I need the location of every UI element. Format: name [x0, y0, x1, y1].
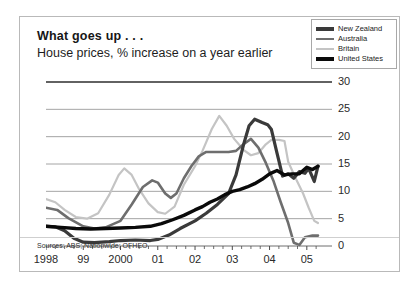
legend-label: Australia [338, 34, 367, 44]
chart-title: What goes up . . . [37, 29, 143, 43]
legend-label: New Zealand [338, 24, 382, 34]
y-tick-label: 25 [338, 103, 350, 114]
legend-item-new-zealand: New Zealand [316, 24, 393, 34]
x-tick-label: 02 [175, 254, 215, 265]
x-tick-label: 99 [63, 254, 103, 265]
legend-item-britain: Britain [316, 44, 393, 54]
sources-note: Sources: ABS; Nationwide; OFHEO [37, 242, 148, 249]
y-tick-label: 10 [338, 185, 350, 196]
y-tick-label: 0 [338, 240, 344, 251]
chart-legend: New ZealandAustraliaBritainUnited States [311, 19, 397, 69]
x-tick-label: 05 [287, 254, 327, 265]
y-tick-label: 5 [338, 213, 344, 224]
legend-swatch-icon [316, 57, 334, 60]
x-tick-label: 04 [250, 254, 290, 265]
chart-svg [46, 78, 343, 250]
chart-subtitle: House prices, % increase on a year earli… [37, 46, 273, 60]
legend-item-australia: Australia [316, 34, 393, 44]
y-tick-label: 20 [338, 131, 350, 142]
x-tick-label: 01 [138, 254, 178, 265]
legend-swatch-icon [316, 27, 334, 30]
legend-label: United States [338, 54, 383, 64]
legend-label: Britain [338, 44, 359, 54]
x-tick-label: 1998 [26, 254, 66, 265]
x-tick-label: 03 [212, 254, 252, 265]
y-tick-label: 30 [338, 76, 350, 87]
plot-area [46, 78, 343, 250]
legend-swatch-icon [316, 48, 334, 50]
legend-swatch-icon [316, 38, 334, 41]
chart-figure: What goes up . . . House prices, % incre… [19, 16, 400, 272]
y-tick-label: 15 [338, 158, 350, 169]
x-tick-label: 2000 [101, 254, 141, 265]
legend-item-united-states: United States [316, 54, 393, 64]
divider [20, 237, 399, 238]
